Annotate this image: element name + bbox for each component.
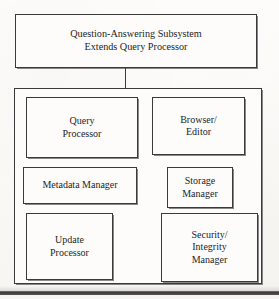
component-box-query-processor: Query Processor: [26, 97, 138, 158]
page-edge-artifact: [0, 291, 279, 295]
browser-editor-line-1: Browser/: [180, 114, 217, 127]
header-line-2: Extends Query Processor: [85, 41, 188, 54]
query-processor-line-2: Processor: [63, 128, 102, 141]
query-processor-line-1: Query: [70, 115, 95, 128]
storage-manager-line-1: Storage: [185, 175, 216, 188]
component-box-update-processor: Update Processor: [26, 213, 113, 280]
metadata-manager-line-1: Metadata Manager: [42, 179, 117, 192]
header-line-1: Question-Answering Subsystem: [70, 28, 202, 41]
security-integrity-line-2: Integrity: [192, 241, 226, 254]
component-box-metadata-manager: Metadata Manager: [23, 167, 137, 204]
component-box-storage-manager: Storage Manager: [167, 167, 233, 208]
component-box-browser-editor: Browser/ Editor: [152, 97, 245, 155]
update-processor-line-2: Processor: [50, 247, 89, 260]
header-box-question-answering-subsystem: Question-Answering Subsystem Extends Que…: [15, 14, 257, 68]
connector-line: [125, 68, 126, 88]
component-box-security-integrity-manager: Security/ Integrity Manager: [161, 213, 258, 282]
update-processor-line-1: Update: [55, 234, 84, 247]
architecture-diagram-figure: Question-Answering Subsystem Extends Que…: [0, 0, 279, 299]
security-integrity-line-1: Security/: [191, 229, 227, 242]
storage-manager-line-2: Manager: [182, 188, 218, 201]
browser-editor-line-2: Editor: [186, 126, 211, 139]
security-integrity-line-3: Manager: [192, 254, 228, 267]
